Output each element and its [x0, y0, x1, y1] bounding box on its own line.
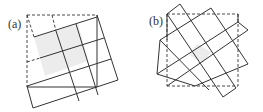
diagram-panel-b: (b)	[131, 0, 263, 112]
rotated-grid-a	[0, 0, 131, 112]
diagram-panel-a: (a)	[0, 0, 131, 112]
rotated-grid-b	[131, 0, 263, 112]
